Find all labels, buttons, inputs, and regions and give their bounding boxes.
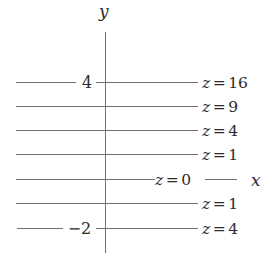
level-value: 9 (228, 98, 238, 116)
level-variable: z (202, 74, 210, 92)
level-curve-row: z=1 (0, 145, 273, 165)
level-value: 4 (228, 220, 238, 238)
equals-sign: = (210, 98, 228, 116)
level-variable: z (202, 220, 210, 238)
level-label-z0: z=0 (155, 170, 191, 190)
level-curve-row: −2 z=4 (0, 219, 273, 239)
level-variable: z (202, 146, 210, 164)
equals-sign: = (163, 171, 181, 189)
level-value: 1 (228, 195, 238, 213)
x-axis-row: z=0 x (0, 170, 273, 190)
level-label-z1-upper: z=1 (202, 145, 238, 165)
y-tick-label-minus-2: −2 (63, 219, 96, 239)
level-label-z4-lower: z=4 (202, 219, 238, 239)
level-curve-row: z=4 (0, 121, 273, 141)
level-label-z1-lower: z=1 (202, 194, 238, 214)
level-label-z16: z=16 (202, 73, 248, 93)
level-curve-row: 4 z=16 (0, 73, 273, 93)
level-curve-figure: y 4 z=16 z=9 z=4 z=1 z=0 (0, 0, 273, 263)
level-line-segment (16, 154, 198, 155)
level-variable: z (202, 195, 210, 213)
level-variable: z (202, 122, 210, 140)
level-line-segment (96, 228, 198, 229)
level-value: 0 (181, 171, 191, 189)
equals-sign: = (210, 122, 228, 140)
level-curve-row: z=1 (0, 194, 273, 214)
y-axis-label: y (99, 3, 109, 20)
x-axis-line-right (205, 179, 237, 180)
level-curve-row: z=9 (0, 97, 273, 117)
equals-sign: = (210, 195, 228, 213)
y-tick-label-4: 4 (76, 73, 98, 93)
level-variable: z (202, 98, 210, 116)
level-value: 4 (228, 122, 238, 140)
level-label-z4-upper: z=4 (202, 121, 238, 141)
equals-sign: = (210, 220, 228, 238)
level-value: 16 (228, 74, 248, 92)
level-line-segment (17, 228, 63, 229)
level-line-segment (16, 82, 76, 83)
level-line-segment (16, 106, 198, 107)
level-line-segment (16, 130, 198, 131)
level-label-z9: z=9 (202, 97, 238, 117)
level-variable: z (155, 171, 163, 189)
level-line-segment (16, 203, 198, 204)
equals-sign: = (210, 146, 228, 164)
equals-sign: = (210, 74, 228, 92)
x-axis-label: x (251, 170, 261, 190)
x-axis-line-left (16, 179, 155, 180)
level-line-segment (96, 82, 198, 83)
level-value: 1 (228, 146, 238, 164)
